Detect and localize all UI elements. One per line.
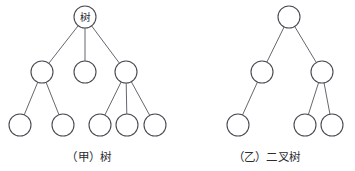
tree-edge <box>46 82 59 115</box>
tree-node-circle <box>74 61 96 83</box>
tree-node <box>278 6 300 28</box>
tree-node <box>227 114 249 136</box>
nodes-layer: 树 <box>9 6 343 136</box>
tree-node <box>251 61 273 83</box>
tree-node-circle <box>294 114 316 136</box>
tree-edge <box>295 26 317 62</box>
tree-node-circle <box>115 61 137 83</box>
tree-node <box>321 114 343 136</box>
tree-node <box>116 114 138 136</box>
tree-node-circle <box>9 114 31 136</box>
caption-tree-general: （甲）树 <box>0 148 178 164</box>
tree-edge <box>308 82 318 114</box>
tree-node-circle <box>278 6 300 28</box>
tree-edge <box>324 83 330 114</box>
tree-edge <box>267 27 284 62</box>
tree-node-label: 树 <box>80 11 91 23</box>
tree-node <box>52 114 74 136</box>
tree-node <box>74 61 96 83</box>
edges-layer <box>24 26 330 116</box>
tree-node-circle <box>321 114 343 136</box>
tree-node: 树 <box>74 6 96 28</box>
caption-tree-binary: （乙）二叉树 <box>178 148 355 164</box>
tree-node-circle <box>89 114 111 136</box>
tree-node-circle <box>31 61 53 83</box>
tree-edge <box>24 82 38 115</box>
tree-node-circle <box>144 114 166 136</box>
tree-edge <box>105 82 121 115</box>
figure-page: 树 （甲）树 （乙）二叉树 <box>0 0 355 171</box>
tree-node-circle <box>251 61 273 83</box>
tree-node <box>294 114 316 136</box>
tree-node-circle <box>311 61 333 83</box>
tree-edge <box>131 82 149 116</box>
tree-node <box>144 114 166 136</box>
tree-edge <box>243 82 258 115</box>
tree-node <box>89 114 111 136</box>
tree-node <box>31 61 53 83</box>
tree-edge <box>92 26 120 63</box>
tree-node-circle <box>52 114 74 136</box>
tree-node-circle <box>227 114 249 136</box>
tree-node-circle <box>116 114 138 136</box>
tree-edge <box>126 83 127 114</box>
tree-node <box>311 61 333 83</box>
tree-node <box>9 114 31 136</box>
tree-node <box>115 61 137 83</box>
tree-edge <box>49 26 78 64</box>
tree-diagrams-canvas: 树 <box>0 0 355 171</box>
